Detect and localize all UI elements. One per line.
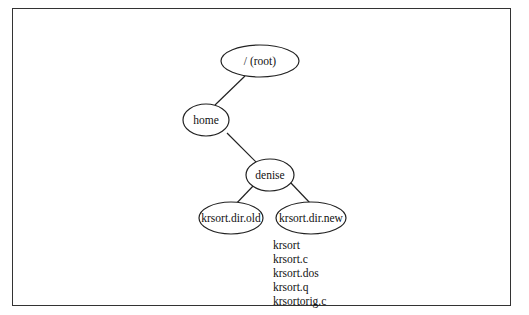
file-item: krsort.c bbox=[273, 252, 326, 266]
file-item: krsort.dos bbox=[273, 266, 326, 280]
file-item: krsort bbox=[273, 238, 326, 252]
edge-root-home bbox=[215, 76, 245, 105]
label-root: / (root) bbox=[244, 55, 276, 68]
edge-home-denise bbox=[227, 133, 259, 165]
label-krsort-dir-old: krsort.dir.old bbox=[201, 212, 261, 224]
file-list: krsort krsort.c krsort.dos krsort.q krso… bbox=[273, 238, 326, 308]
label-denise: denise bbox=[255, 169, 284, 181]
file-item: krsortorig.c bbox=[273, 294, 326, 308]
label-krsort-dir-new: krsort.dir.new bbox=[279, 212, 344, 224]
edge-denise-new bbox=[290, 182, 310, 203]
label-home: home bbox=[193, 114, 219, 126]
file-item: krsort.q bbox=[273, 280, 326, 294]
tree-diagram: / (root) home denise krsort.dir.old krso… bbox=[0, 0, 529, 315]
